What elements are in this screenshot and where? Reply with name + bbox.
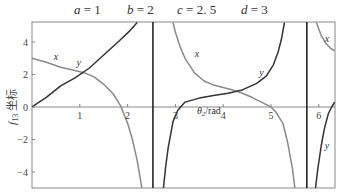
annotation-label: x bbox=[324, 33, 330, 44]
annotation-label: y bbox=[258, 67, 264, 78]
x-tick-label: 3 bbox=[173, 110, 178, 121]
plot-frame bbox=[32, 22, 335, 188]
series-x-curve bbox=[32, 23, 335, 189]
chart-area: 123456420−2−4 xyxyxyθ2/rad f13 坐标 bbox=[0, 0, 339, 196]
y-tick-label: −2 bbox=[17, 134, 28, 145]
y-tick-label: −4 bbox=[17, 167, 28, 178]
x-axis-label: θ2/rad bbox=[197, 105, 221, 118]
x-tick-label: 1 bbox=[77, 110, 82, 121]
annotation-label: y bbox=[324, 140, 330, 151]
y-tick-label: 2 bbox=[23, 69, 28, 80]
x-tick-label: 5 bbox=[269, 110, 274, 121]
curves bbox=[32, 23, 335, 189]
series-y-curve bbox=[32, 23, 335, 189]
annotation-label: x bbox=[53, 51, 59, 62]
y-tick-label: 4 bbox=[23, 37, 28, 48]
x-tick-label: 2 bbox=[125, 110, 130, 121]
annotation-label: x bbox=[194, 48, 200, 59]
x-tick-label: 4 bbox=[221, 110, 226, 121]
y-tick-label: 0 bbox=[23, 102, 28, 113]
y-axis-label: f13 坐标 bbox=[5, 89, 20, 125]
curve-labels: xyxyxyθ2/rad bbox=[53, 33, 330, 151]
plot-border bbox=[32, 22, 335, 188]
x-tick-label: 6 bbox=[316, 110, 321, 121]
annotation-label: y bbox=[76, 57, 82, 68]
asymptote-lines bbox=[153, 22, 307, 188]
